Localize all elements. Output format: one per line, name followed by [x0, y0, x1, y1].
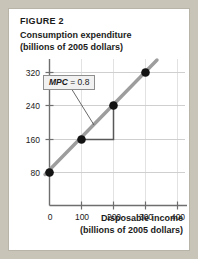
x-axis-title-units: (billions of 2005 dollars)	[11, 225, 183, 237]
x-axis-title: Disposable income (billions of 2005 doll…	[11, 213, 183, 236]
y-tick-label-160: 160	[18, 135, 40, 145]
x-axis-title-main: Disposable income	[101, 213, 183, 223]
figure-card: FIGURE 2 Consumption expenditure (billio…	[8, 8, 190, 251]
data-point	[141, 68, 150, 77]
y-tick-label-240: 240	[18, 101, 40, 111]
data-point	[109, 101, 118, 110]
mpc-annotation-callout: MPC = 0.8	[43, 75, 95, 90]
mpc-value: = 0.8	[68, 77, 90, 87]
mpc-symbol: MPC	[49, 77, 68, 87]
y-tick-label-320: 320	[18, 68, 40, 78]
data-point	[77, 135, 86, 144]
data-point	[45, 168, 54, 177]
callout-leader-line	[71, 88, 94, 125]
vertical-gridlines	[82, 59, 178, 205]
y-tick-label-80: 80	[18, 168, 40, 178]
